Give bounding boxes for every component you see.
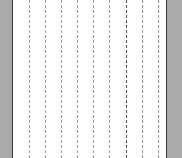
column-guide-line [77,0,78,158]
column-guide-line [158,0,159,158]
column-guide-line [93,0,94,158]
column-guide-line [142,0,143,158]
column-guide-line [126,0,127,158]
column-guide-line [61,0,62,158]
page-canvas-view [0,0,182,158]
column-guide-line [45,0,46,158]
column-guide-line [29,0,30,158]
left-gutter [0,0,13,158]
right-gutter [166,0,182,158]
column-guide-line [109,0,110,158]
page-area[interactable] [13,0,166,158]
